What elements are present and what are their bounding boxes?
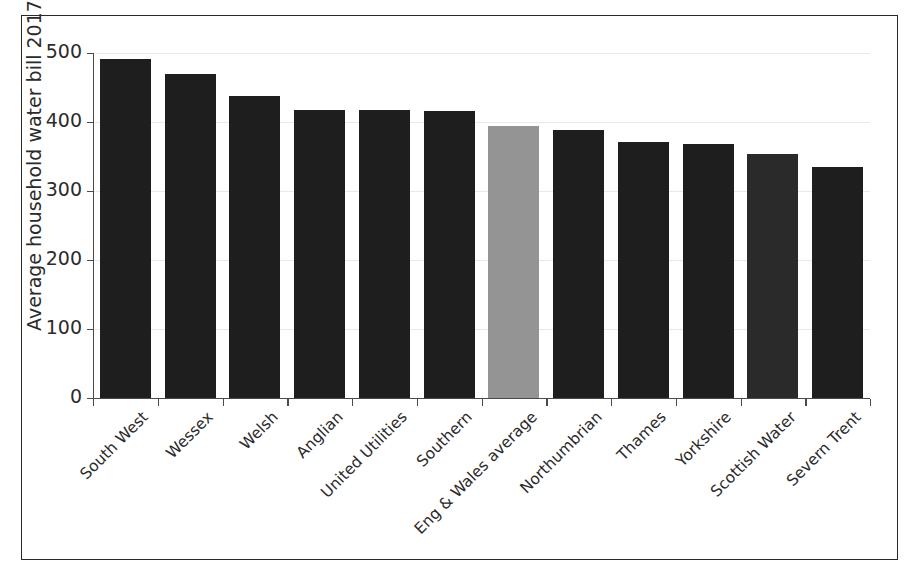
x-tick-mark bbox=[482, 399, 483, 406]
x-tick-mark bbox=[676, 399, 677, 406]
y-axis-tick-labels: 0100200300400500 bbox=[18, 0, 82, 576]
x-tick-mark bbox=[870, 399, 871, 406]
y-tick-label: 300 bbox=[22, 178, 82, 200]
x-tick-mark bbox=[805, 399, 806, 406]
bar[interactable] bbox=[294, 110, 345, 398]
bar[interactable] bbox=[424, 111, 475, 398]
bar[interactable] bbox=[100, 59, 151, 398]
x-tick-mark bbox=[223, 399, 224, 406]
bar[interactable] bbox=[618, 142, 669, 398]
bar[interactable] bbox=[229, 96, 280, 398]
x-tick-mark bbox=[741, 399, 742, 406]
y-tick-label: 500 bbox=[22, 40, 82, 62]
bar[interactable] bbox=[683, 144, 734, 398]
y-tick-label: 100 bbox=[22, 316, 82, 338]
bar[interactable] bbox=[553, 130, 604, 398]
bar[interactable] bbox=[165, 74, 216, 398]
bar[interactable] bbox=[359, 110, 410, 398]
y-tick-label: 200 bbox=[22, 247, 82, 269]
x-tick-mark bbox=[352, 399, 353, 406]
bar[interactable] bbox=[747, 154, 798, 398]
x-tick-mark bbox=[417, 399, 418, 406]
y-tick-label: 400 bbox=[22, 109, 82, 131]
x-tick-mark bbox=[158, 399, 159, 406]
x-tick-mark bbox=[287, 399, 288, 406]
bar[interactable] bbox=[488, 126, 539, 398]
figure: Average household water bill 2017-18 010… bbox=[0, 0, 905, 576]
bar-series bbox=[93, 53, 870, 398]
x-tick-mark bbox=[611, 399, 612, 406]
x-tick-mark bbox=[546, 399, 547, 406]
bar[interactable] bbox=[812, 167, 863, 398]
x-tick-mark bbox=[93, 399, 94, 406]
y-tick-label: 0 bbox=[22, 385, 82, 407]
